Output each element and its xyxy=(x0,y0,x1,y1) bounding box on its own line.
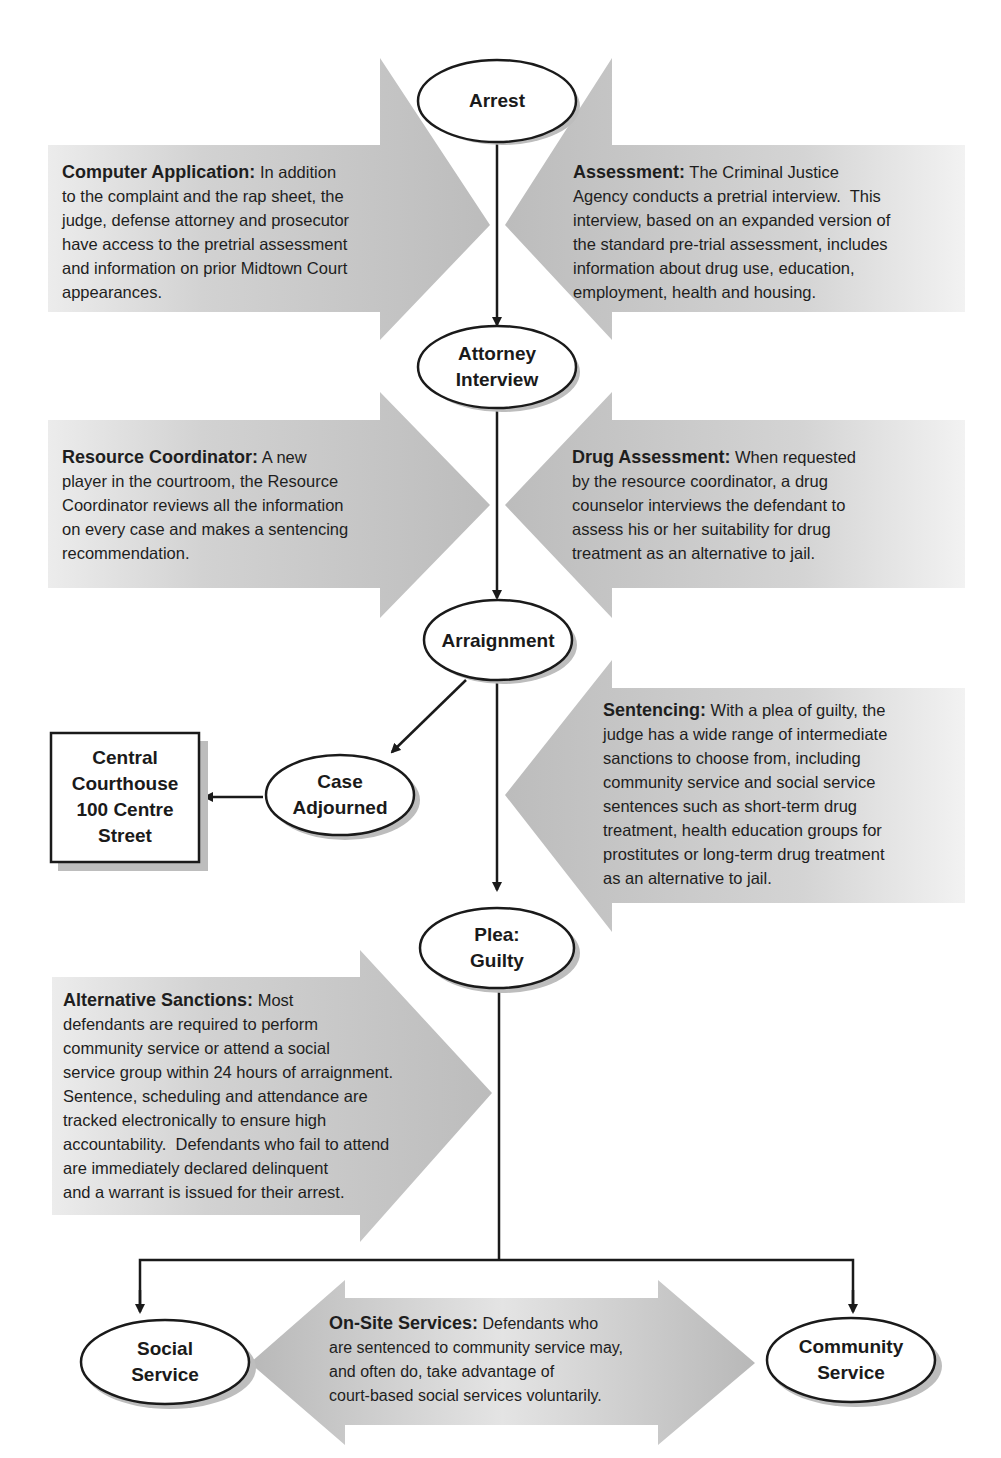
callout-title: Assessment: xyxy=(573,162,685,182)
callout-sentencing: Sentencing: With a plea of guilty, theju… xyxy=(603,698,958,890)
node-central-courthouse-line2: Courthouse xyxy=(72,771,179,797)
node-central-courthouse: Central Courthouse 100 Centre Street xyxy=(51,743,199,851)
callout-line: treatment as an alternative to jail. xyxy=(572,541,952,565)
callout-line: community service or attend a social xyxy=(63,1036,433,1060)
callout-title: On-Site Services: xyxy=(329,1313,478,1333)
node-central-courthouse-line3: 100 Centre xyxy=(76,797,173,823)
callout-line: Drug Assessment: When requested xyxy=(572,445,952,469)
callout-title: Resource Coordinator: xyxy=(62,447,258,467)
callout-title: Drug Assessment: xyxy=(572,447,730,467)
callout-line: Assessment: The Criminal Justice xyxy=(573,160,953,184)
callout-line: Computer Application: In addition xyxy=(62,160,407,184)
callout-title: Sentencing: xyxy=(603,700,706,720)
callout-line: appearances. xyxy=(62,280,407,304)
callout-line: by the resource coordinator, a drug xyxy=(572,469,952,493)
callout-line: are immediately declared delinquent xyxy=(63,1156,433,1180)
callout-line: and information on prior Midtown Court xyxy=(62,256,407,280)
callout-line: on every case and makes a sentencing xyxy=(62,517,407,541)
callout-computer-application: Computer Application: In additionto the … xyxy=(62,160,407,304)
callout-line: as an alternative to jail. xyxy=(603,866,958,890)
node-case-adjourned: Case Adjourned xyxy=(266,768,414,822)
callout-title: Alternative Sanctions: xyxy=(63,990,253,1010)
callout-line: player in the courtroom, the Resource xyxy=(62,469,407,493)
callout-line: counselor interviews the defendant to xyxy=(572,493,952,517)
callout-line: treatment, health education groups for xyxy=(603,818,958,842)
callout-resource-coordinator: Resource Coordinator: A newplayer in the… xyxy=(62,445,407,565)
node-social-service: Social Service xyxy=(81,1335,249,1389)
node-plea-guilty-line1: Plea: xyxy=(474,922,519,948)
callout-line: accountability. Defendants who fail to a… xyxy=(63,1132,433,1156)
callout-line: and a warrant is issued for their arrest… xyxy=(63,1180,433,1204)
callout-line: tracked electronically to ensure high xyxy=(63,1108,433,1132)
node-central-courthouse-line4: Street xyxy=(98,823,152,849)
callout-assessment: Assessment: The Criminal JusticeAgency c… xyxy=(573,160,953,304)
callout-line: Coordinator reviews all the information xyxy=(62,493,407,517)
callout-line: On-Site Services: Defendants who xyxy=(329,1311,699,1336)
node-arraignment-label: Arraignment xyxy=(442,628,555,654)
node-central-courthouse-line1: Central xyxy=(92,745,157,771)
callout-line: Sentencing: With a plea of guilty, the xyxy=(603,698,958,722)
node-social-service-line1: Social xyxy=(137,1336,193,1362)
callout-title: Computer Application: xyxy=(62,162,255,182)
callout-line: sentences such as short-term drug xyxy=(603,794,958,818)
callout-line: employment, health and housing. xyxy=(573,280,953,304)
node-community-service: Community Service xyxy=(767,1333,935,1387)
callout-line: recommendation. xyxy=(62,541,407,565)
callout-line: are sentenced to community service may, xyxy=(329,1336,699,1360)
callout-line: judge, defense attorney and prosecutor xyxy=(62,208,407,232)
node-plea-guilty-line2: Guilty xyxy=(470,948,524,974)
callout-line: interview, based on an expanded version … xyxy=(573,208,953,232)
callout-alternative-sanctions: Alternative Sanctions: Mostdefendants ar… xyxy=(63,988,433,1204)
callout-line: information about drug use, education, xyxy=(573,256,953,280)
callout-line: community service and social service xyxy=(603,770,958,794)
node-attorney-interview: Attorney Interview xyxy=(420,340,574,394)
node-case-adjourned-line2: Adjourned xyxy=(293,795,388,821)
callout-line: sanctions to choose from, including xyxy=(603,746,958,770)
node-arraignment: Arraignment xyxy=(424,624,572,658)
callout-line: assess his or her suitability for drug xyxy=(572,517,952,541)
callout-line: have access to the pretrial assessment xyxy=(62,232,407,256)
node-plea-guilty: Plea: Guilty xyxy=(420,921,574,975)
node-case-adjourned-line1: Case xyxy=(317,769,362,795)
callout-on-site-services: On-Site Services: Defendants whoare sent… xyxy=(329,1311,699,1408)
callout-line: Agency conducts a pretrial interview. Th… xyxy=(573,184,953,208)
node-community-service-line2: Service xyxy=(817,1360,885,1386)
callout-line: court-based social services voluntarily. xyxy=(329,1384,699,1408)
node-community-service-line1: Community xyxy=(799,1334,904,1360)
callout-line: to the complaint and the rap sheet, the xyxy=(62,184,407,208)
node-social-service-line2: Service xyxy=(131,1362,199,1388)
callout-line: and often do, take advantage of xyxy=(329,1360,699,1384)
callout-line: Alternative Sanctions: Most xyxy=(63,988,433,1012)
callout-line: Sentence, scheduling and attendance are xyxy=(63,1084,433,1108)
callout-line: the standard pre-trial assessment, inclu… xyxy=(573,232,953,256)
node-arrest: Arrest xyxy=(420,84,574,118)
callout-line: prostitutes or long-term drug treatment xyxy=(603,842,958,866)
callout-line: Resource Coordinator: A new xyxy=(62,445,407,469)
node-attorney-interview-line2: Interview xyxy=(456,367,538,393)
callout-drug-assessment: Drug Assessment: When requestedby the re… xyxy=(572,445,952,565)
callout-line: judge has a wide range of intermediate xyxy=(603,722,958,746)
node-attorney-interview-line1: Attorney xyxy=(458,341,536,367)
node-arrest-label: Arrest xyxy=(469,88,525,114)
callout-line: defendants are required to perform xyxy=(63,1012,433,1036)
callout-line: service group within 24 hours of arraign… xyxy=(63,1060,433,1084)
